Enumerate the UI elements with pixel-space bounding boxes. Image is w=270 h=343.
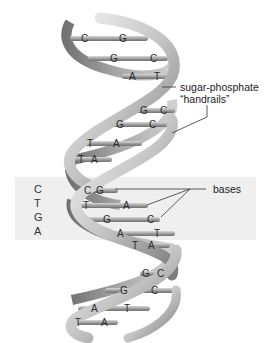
base-letter: T [87, 138, 93, 149]
strand-base-label: G [34, 212, 43, 223]
strand-base-label: T [34, 198, 41, 209]
base-letter: G [119, 33, 127, 44]
base-letter: C [147, 214, 154, 225]
base-letter: C [151, 285, 158, 296]
base-letter: G [103, 214, 111, 225]
base-letter: C [157, 268, 164, 279]
base-letter: C [81, 33, 88, 44]
base-letter: T [154, 71, 160, 82]
base-letter: A [117, 228, 124, 239]
base-letter: T [124, 303, 130, 314]
dna-diagram: C G G C A T G C G C T A T A C G T A G C … [0, 0, 270, 343]
base-letter: A [129, 71, 136, 82]
base-letter: A [123, 200, 130, 211]
base-letter: A [113, 138, 120, 149]
base-letter: C [150, 53, 157, 64]
strand-base-label: A [34, 226, 41, 237]
base-letter: T [78, 154, 84, 165]
base-letter: G [96, 185, 104, 196]
strand-base-label: C [34, 184, 42, 195]
handrails-label-line2: “handrails” [180, 93, 259, 105]
base-letter: G [116, 119, 124, 130]
base-letter: T [83, 200, 89, 211]
base-letter: C [149, 119, 156, 130]
base-letter: A [101, 317, 108, 328]
base-letter: T [75, 317, 81, 328]
base-letter: T [132, 240, 138, 251]
base-letter: G [142, 268, 150, 279]
handrails-label: sugar-phosphate “handrails” [180, 81, 259, 105]
base-letter: G [110, 53, 118, 64]
base-letter: T [154, 228, 160, 239]
bases-label: bases [213, 183, 241, 195]
base-letter: A [91, 154, 98, 165]
base-letter: C [84, 185, 91, 196]
base-letter: G [120, 285, 128, 296]
base-letter: A [91, 303, 98, 314]
base-letter: G [140, 105, 148, 116]
base-letter: C [160, 105, 167, 116]
helix-graphic: C G G C A T G C G C T A T A C G T A G C … [0, 0, 270, 343]
handrails-label-line1: sugar-phosphate [180, 81, 259, 93]
base-letter: A [148, 240, 155, 251]
